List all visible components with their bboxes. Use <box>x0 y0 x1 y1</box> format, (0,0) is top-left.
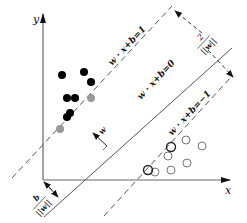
positive-margin-label: w · x+b=1 <box>106 24 148 68</box>
negative-point <box>198 142 206 150</box>
normal-vector-indicator: w <box>93 124 109 150</box>
negative-point <box>182 136 190 144</box>
positive-point <box>63 94 71 102</box>
negative-point <box>183 159 191 167</box>
positive-points <box>56 68 95 133</box>
offset-numerator: b <box>31 192 42 203</box>
normal-vector-arrow <box>93 133 107 146</box>
negative-point <box>167 166 175 174</box>
y-axis-label: y <box>32 13 40 26</box>
hyperplane-labels: w · x+b=1 w · x+b=0 w · x+b=−1 <box>106 24 213 138</box>
margin-width-indicator: 2 ||w|| <box>175 11 233 77</box>
positive-point <box>80 68 88 76</box>
negative-margin-label: w · x+b=−1 <box>166 88 213 137</box>
offset-indicator: b ||w|| <box>25 182 58 218</box>
decision-boundary-label: w · x+b=0 <box>135 57 177 101</box>
negative-point <box>164 152 172 160</box>
positive-support-vector <box>87 94 95 102</box>
svm-diagram: y x w · x+b=1 w · x+b=0 w · x+b=−1 2 ||w… <box>0 0 247 223</box>
offset-arrow-2 <box>47 185 58 197</box>
positive-point <box>66 109 74 117</box>
positive-support-vector <box>56 125 64 133</box>
negative-support-vector <box>167 143 176 152</box>
positive-point <box>58 71 66 79</box>
decision-boundary-line <box>44 48 232 217</box>
normal-vector-label: w <box>96 124 109 137</box>
x-axis-label: x <box>225 184 232 197</box>
positive-point <box>87 78 95 86</box>
negative-points <box>144 136 207 176</box>
margin-arrow-down <box>208 50 233 77</box>
positive-point <box>71 94 79 102</box>
margin-arrow-up <box>175 11 202 33</box>
